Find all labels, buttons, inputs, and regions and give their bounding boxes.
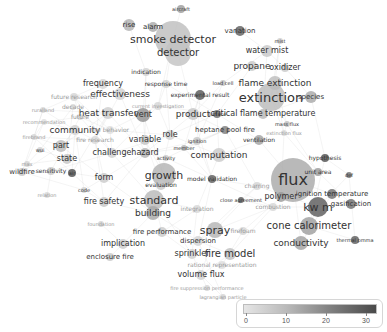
node-label[interactable]: fire model (205, 249, 256, 259)
node-label[interactable]: variation (225, 28, 256, 35)
node-label[interactable]: hypothesis (309, 155, 342, 161)
node-label[interactable]: gasification (331, 201, 371, 208)
node-label[interactable]: computation (191, 151, 248, 160)
node-label[interactable]: critical flame temperature (211, 110, 316, 118)
node-label[interactable]: effectiveness (90, 90, 150, 99)
legend-tick (286, 313, 287, 316)
node-label[interactable]: role (162, 131, 177, 139)
node-label[interactable]: extinction (239, 91, 303, 104)
legend-tick (246, 313, 247, 316)
legend-tick-label-10: 10 (282, 317, 290, 324)
node-label[interactable]: flux (278, 172, 308, 188)
edge (311, 97, 325, 158)
node-label[interactable]: polymer (265, 193, 298, 201)
node-label[interactable]: alarm (143, 24, 163, 31)
node-label[interactable]: growth (145, 170, 183, 181)
node-label[interactable]: fire behavior (91, 127, 129, 133)
node-label[interactable]: wui (36, 148, 45, 153)
node-label[interactable]: rise (123, 22, 136, 29)
node-label[interactable]: spray (200, 225, 231, 236)
node-label[interactable]: close agreement (220, 198, 262, 203)
node-label[interactable]: activity (157, 156, 175, 161)
node-label[interactable]: ignition (188, 139, 207, 144)
node-label[interactable]: hazard (131, 149, 158, 157)
node-label[interactable]: air (69, 171, 76, 176)
color-legend: 0 10 20 30 (236, 299, 383, 328)
legend-tick-label-0: 0 (244, 317, 248, 324)
node-label[interactable]: cone calorimeter (267, 221, 352, 231)
node-label[interactable]: indication (131, 69, 160, 75)
node-label[interactable]: ignition temperature (296, 191, 368, 198)
node-label[interactable]: challenge (93, 149, 132, 157)
node-label[interactable]: response time (145, 81, 188, 87)
node-label[interactable]: enclosure fire (86, 254, 134, 261)
node-label[interactable]: species (298, 94, 324, 101)
node-label[interactable]: future research (51, 94, 97, 100)
node-label[interactable]: def (345, 173, 353, 178)
node-label[interactable]: water mist (246, 47, 289, 55)
node-label[interactable]: future (71, 114, 89, 120)
node-label[interactable]: code (78, 188, 90, 193)
node-label[interactable]: detector (157, 48, 199, 58)
legend-tick (326, 313, 327, 316)
node-label[interactable]: part (53, 142, 69, 150)
node-label[interactable]: rational representation (188, 262, 257, 268)
node-label[interactable]: state (57, 155, 77, 163)
node-label[interactable]: kw m (303, 202, 333, 213)
node-label[interactable]: integration (181, 206, 214, 212)
edge (192, 209, 197, 254)
node-label[interactable]: combustion (255, 204, 290, 210)
node-label[interactable]: foundation (88, 222, 115, 227)
node-label[interactable]: thermal pmma (336, 238, 373, 243)
node-label[interactable]: building (135, 209, 171, 218)
node-label[interactable]: smoke detector (130, 34, 216, 45)
node-label[interactable]: implication (101, 240, 145, 248)
node-label[interactable]: max (22, 162, 33, 167)
edge (197, 155, 219, 209)
node-label[interactable]: standard (130, 195, 179, 206)
node-label[interactable]: volume flux (177, 271, 224, 279)
node-label[interactable]: propane (233, 62, 270, 71)
node-label[interactable]: oxidizer (269, 64, 300, 72)
edge (72, 130, 75, 173)
node-label[interactable]: evaluation (145, 182, 177, 188)
legend-tick-label-20: 20 (322, 317, 330, 324)
node-label[interactable]: ventilation (243, 137, 275, 143)
node-label[interactable]: product (176, 110, 211, 119)
node-label[interactable]: flame extinction (239, 79, 312, 88)
node-label[interactable]: fire research (76, 137, 114, 143)
node-label[interactable]: mist (275, 39, 286, 44)
legend-gradient-bar (243, 304, 377, 314)
node-label[interactable]: frequency (83, 80, 123, 88)
node-label[interactable]: experimental result (171, 92, 230, 98)
node-label[interactable]: fire performance (133, 229, 192, 236)
node-label[interactable]: wildfire (9, 169, 35, 176)
legend-tick (366, 313, 367, 316)
node-label[interactable]: fire safety (84, 198, 124, 206)
node-label[interactable]: aircraft (172, 7, 190, 12)
node-label[interactable]: sensitivity (36, 168, 67, 174)
node-label[interactable]: mass flux (275, 122, 299, 127)
node-label[interactable]: conductivity (273, 239, 328, 248)
node-label[interactable]: firebrand (23, 135, 46, 140)
node-label[interactable]: heptane pool fire (195, 127, 255, 134)
node-label[interactable]: firefoam (230, 228, 255, 234)
node-label[interactable]: form (95, 174, 114, 182)
node-label[interactable]: dispersion (180, 238, 216, 245)
node-label[interactable]: extinction flux (266, 131, 302, 136)
node-label[interactable]: model validation (187, 176, 237, 182)
legend-tick-label-30: 30 (362, 317, 370, 324)
node-label[interactable]: relation (37, 193, 56, 198)
node-label[interactable]: vent (134, 111, 152, 119)
node-label[interactable]: ruralland (32, 108, 55, 113)
node-label[interactable]: fire suppression performance (170, 286, 243, 291)
node-label[interactable]: charring (245, 183, 270, 189)
node-label[interactable]: unit area (305, 169, 332, 175)
node-label[interactable]: variable (129, 136, 161, 144)
node-label[interactable]: load cell (213, 81, 234, 86)
